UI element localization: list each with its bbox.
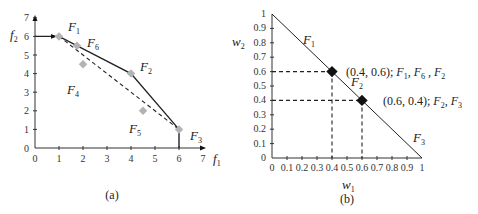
figure: 0 1 2 3 4 5 6 7 f1 0 1 2 3 4 5 6 7 xyxy=(0,0,478,214)
label-f6: F6 xyxy=(86,35,99,52)
y-tick-label: 0.3 xyxy=(254,109,267,120)
y-tick-label: 5 xyxy=(24,50,29,61)
x-ticks: 0 1 2 3 4 5 6 7 xyxy=(33,146,206,164)
y-tick-label: 7 xyxy=(24,12,29,23)
annotation-point-04-06: (0.4, 0.6); F1, F6 , F2 xyxy=(346,65,445,81)
x-tick-label: 0.2 xyxy=(296,162,309,173)
y-tick-label: 0.4 xyxy=(254,94,267,105)
pareto-front-line xyxy=(35,36,179,148)
label-f4: F4 xyxy=(66,82,79,99)
x-tick-label: 0.7 xyxy=(371,162,384,173)
x-tick-label: 0.4 xyxy=(326,162,339,173)
y-axis-label: w2 xyxy=(232,34,245,51)
y-tick-label: 2 xyxy=(24,105,29,116)
y-tick-label: 0.7 xyxy=(254,51,267,62)
label-f2: F2 xyxy=(139,59,152,76)
label-f3: F3 xyxy=(189,128,202,145)
marker-f5 xyxy=(139,107,147,115)
x-tick-label: 2 xyxy=(81,153,86,164)
y-axis-label: f2 xyxy=(10,27,18,44)
x-axis-arrow-icon xyxy=(200,146,206,151)
x-tick-label: 0.9 xyxy=(401,162,414,173)
x-tick-label: 1 xyxy=(420,162,425,173)
x-axis-label: f1 xyxy=(213,151,221,168)
x-ticks: 0 0.1 0.2 0.3 0.4 0.5 0.6 0.7 0.8 0.9 1 xyxy=(270,156,425,173)
y-tick-label: 6 xyxy=(24,31,29,42)
marker-f4 xyxy=(79,60,87,68)
panel-b: 0 0.1 0.2 0.3 0.4 0.5 0.6 0.7 0.8 0.9 1 … xyxy=(232,8,462,206)
label-f1: F1 xyxy=(67,19,80,36)
x-tick-label: 5 xyxy=(153,153,158,164)
dashed-line-f1-f3 xyxy=(59,36,179,129)
y-tick-label: 1 xyxy=(261,8,266,19)
y-tick-label: 0.6 xyxy=(254,66,267,77)
marker-f6 xyxy=(73,41,81,49)
x-tick-label: 0.5 xyxy=(341,162,354,173)
x-tick-label: 1 xyxy=(57,153,62,164)
y-tick-label: 0 xyxy=(261,152,266,163)
y-tick-label: 0.1 xyxy=(254,138,267,149)
x-tick-label: 0 xyxy=(270,162,275,173)
y-tick-label: 0.5 xyxy=(254,80,267,91)
dashed-guides xyxy=(272,72,362,158)
x-tick-label: 3 xyxy=(105,153,110,164)
x-tick-label: 0.3 xyxy=(311,162,324,173)
label-f5: F5 xyxy=(128,121,141,138)
annotation-point-06-04: (0.6, 0.4); F2, F3 xyxy=(383,94,462,110)
caption-b: (b) xyxy=(340,192,354,206)
y-tick-label: 0.2 xyxy=(254,123,267,134)
x-tick-label: 4 xyxy=(129,153,134,164)
x-tick-label: 0.1 xyxy=(281,162,294,173)
y-tick-label: 0.9 xyxy=(254,22,267,33)
y-tick-label: 3 xyxy=(24,87,29,98)
x-tick-label: 0.6 xyxy=(356,162,369,173)
y-tick-label: 0 xyxy=(24,143,29,154)
region-label-f3: F3 xyxy=(412,130,425,147)
region-label-f1: F1 xyxy=(302,32,315,49)
weight-simplex-line xyxy=(272,14,422,158)
x-tick-label: 0.8 xyxy=(386,162,399,173)
x-tick-label: 7 xyxy=(201,153,206,164)
y-tick-label: 0.8 xyxy=(254,37,267,48)
y-ticks: 0 0.1 0.2 0.3 0.4 0.5 0.6 0.7 0.8 0.9 1 xyxy=(254,8,275,163)
y-tick-label: 1 xyxy=(24,124,29,135)
caption-a: (a) xyxy=(105,188,118,202)
panel-a: 0 1 2 3 4 5 6 7 f1 0 1 2 3 4 5 6 7 xyxy=(10,12,221,202)
marker-f1 xyxy=(55,32,63,40)
x-tick-label: 6 xyxy=(177,153,182,164)
x-tick-label: 0 xyxy=(33,153,38,164)
y-tick-label: 4 xyxy=(24,68,29,79)
